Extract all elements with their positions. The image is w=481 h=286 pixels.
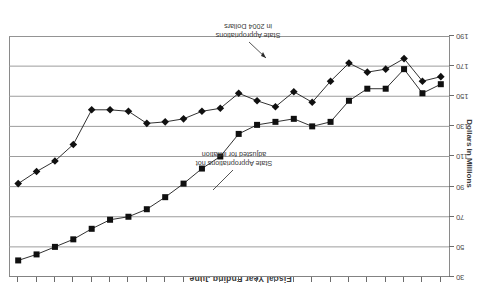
y-tick-label: 70 xyxy=(456,213,478,222)
y-tick xyxy=(449,125,454,126)
y-tick xyxy=(449,186,454,187)
data-point xyxy=(34,251,40,257)
data-point xyxy=(291,116,297,122)
x-tick xyxy=(348,277,349,282)
data-point xyxy=(14,180,22,188)
data-point xyxy=(106,106,114,114)
x-tick xyxy=(330,277,331,282)
data-point xyxy=(364,68,372,76)
data-point xyxy=(328,119,334,125)
data-point xyxy=(236,131,242,137)
data-point xyxy=(419,90,425,96)
data-point xyxy=(364,86,370,92)
x-tick xyxy=(238,277,239,282)
data-point xyxy=(89,226,95,232)
x-tick xyxy=(164,277,165,282)
y-tick xyxy=(449,156,454,157)
x-tick xyxy=(109,277,110,282)
data-point xyxy=(125,214,131,220)
data-point xyxy=(144,206,150,212)
x-tick xyxy=(293,277,294,282)
y-tick-label: 30 xyxy=(456,273,478,282)
data-point xyxy=(401,66,407,72)
data-point xyxy=(309,123,315,129)
data-point xyxy=(198,108,206,116)
chart-figure: Fiscal Year Ending June 1981198219831984… xyxy=(0,0,481,286)
x-tick xyxy=(219,277,220,282)
x-tick xyxy=(256,277,257,282)
y-tick-label: 170 xyxy=(456,62,478,71)
data-point xyxy=(88,106,96,114)
y-tick-label: 50 xyxy=(456,243,478,252)
y-tick xyxy=(449,246,454,247)
data-point xyxy=(437,73,445,81)
data-point xyxy=(33,168,41,176)
x-tick xyxy=(274,277,275,282)
x-tick xyxy=(17,277,18,282)
annotation-real-series: State Appropriations in 2004 Dollars xyxy=(198,22,298,40)
x-tick xyxy=(54,277,55,282)
data-point xyxy=(383,86,389,92)
data-point xyxy=(162,194,168,200)
data-point xyxy=(180,115,188,123)
x-tick xyxy=(72,277,73,282)
y-tick-label: 190 xyxy=(456,32,478,41)
x-tick xyxy=(36,277,37,282)
y-axis-title: Dollars in Millions xyxy=(465,114,474,194)
x-tick xyxy=(311,277,312,282)
x-tick xyxy=(91,277,92,282)
y-tick xyxy=(449,35,454,36)
data-point xyxy=(107,217,113,223)
data-point xyxy=(161,118,169,126)
x-tick xyxy=(403,277,404,282)
y-tick-label: 150 xyxy=(456,92,478,101)
data-point xyxy=(438,81,444,87)
x-tick xyxy=(421,277,422,282)
x-tick xyxy=(440,277,441,282)
data-point xyxy=(253,97,261,105)
data-point xyxy=(70,236,76,242)
x-tick xyxy=(183,277,184,282)
annotation-nominal-series: State Appropriations not adjusted for in… xyxy=(180,150,288,168)
data-point xyxy=(346,98,352,104)
y-tick xyxy=(449,95,454,96)
data-point xyxy=(382,65,390,73)
data-point xyxy=(254,122,260,128)
x-tick xyxy=(201,277,202,282)
x-tick xyxy=(146,277,147,282)
data-point xyxy=(125,108,133,116)
data-point xyxy=(143,120,151,128)
data-point xyxy=(181,181,187,187)
y-tick xyxy=(449,216,454,217)
data-point xyxy=(15,257,21,263)
y-tick xyxy=(449,65,454,66)
x-tick xyxy=(385,277,386,282)
x-tick xyxy=(366,277,367,282)
data-point xyxy=(272,119,278,125)
x-tick xyxy=(127,277,128,282)
data-point xyxy=(52,244,58,250)
y-tick xyxy=(449,276,454,277)
